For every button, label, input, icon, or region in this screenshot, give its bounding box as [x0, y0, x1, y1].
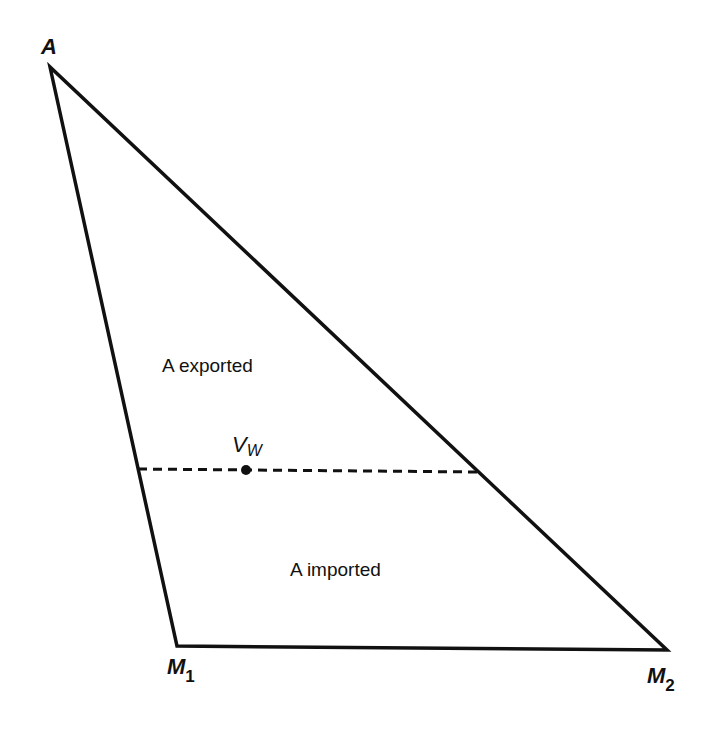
- region-label-exported: A exported: [162, 355, 253, 376]
- point-label-vw-subscript: W: [247, 442, 264, 459]
- vertex-label-m1: M1: [167, 654, 195, 686]
- vw-point: [241, 465, 251, 475]
- vertex-label-m1-subscript: 1: [185, 667, 194, 686]
- point-label-vw: VW: [232, 432, 264, 459]
- vertex-label-m1-main: M: [167, 654, 186, 679]
- dashed-divider-line: [138, 469, 480, 472]
- region-label-imported: A imported: [290, 559, 381, 580]
- vertex-label-m2-main: M: [647, 663, 666, 688]
- vertex-label-a: A: [40, 34, 57, 59]
- vertex-label-m2: M2: [647, 663, 675, 695]
- vertex-label-m2-subscript: 2: [665, 676, 674, 695]
- triangle-diagram: A M1 M2 A exported A imported VW: [0, 0, 717, 736]
